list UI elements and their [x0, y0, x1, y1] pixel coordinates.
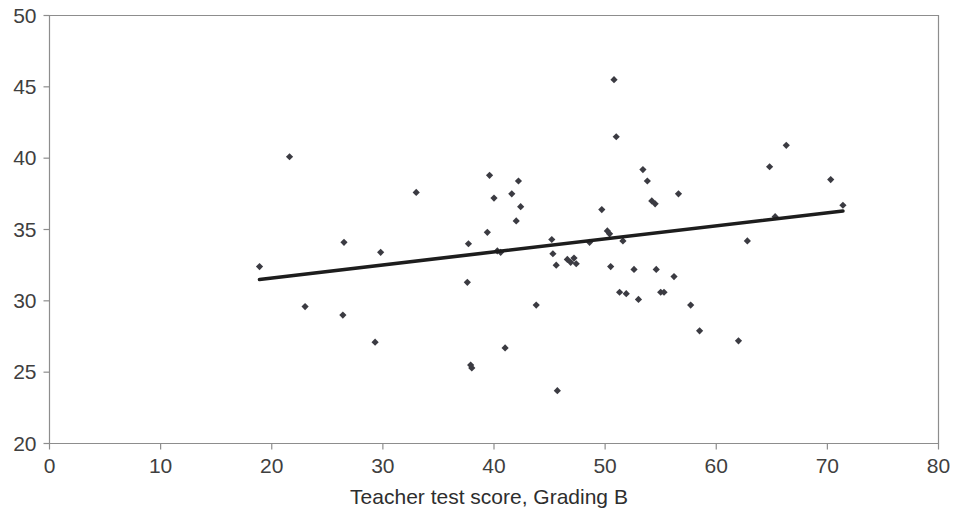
y-tick-label: 50: [13, 4, 36, 27]
data-point: [635, 296, 642, 303]
data-point: [465, 240, 472, 247]
data-point: [286, 153, 293, 160]
x-tick-label: 10: [149, 454, 172, 477]
data-point: [607, 263, 614, 270]
data-point: [508, 190, 515, 197]
data-point: [598, 206, 605, 213]
data-point: [687, 302, 694, 309]
data-point: [610, 76, 617, 83]
chart-figure: 0102030405060708020253035404550 Teacher …: [0, 0, 953, 517]
y-tick-label: 30: [13, 289, 36, 312]
data-point: [533, 302, 540, 309]
data-point: [490, 195, 497, 202]
data-point: [670, 273, 677, 280]
data-point: [301, 303, 308, 310]
trend-line-segment: [260, 211, 843, 279]
data-point: [783, 142, 790, 149]
data-point: [486, 172, 493, 179]
data-point: [839, 202, 846, 209]
data-point: [256, 263, 263, 270]
plot-frame: [50, 16, 939, 444]
data-point: [513, 217, 520, 224]
data-point: [371, 339, 378, 346]
data-point: [766, 163, 773, 170]
data-point: [464, 279, 471, 286]
axis-tick-labels: 0102030405060708020253035404550: [13, 4, 950, 477]
y-tick-label: 25: [13, 360, 36, 383]
data-point: [553, 262, 560, 269]
y-tick-label: 20: [13, 432, 36, 455]
data-point: [339, 312, 346, 319]
data-point: [744, 237, 751, 244]
data-point: [827, 176, 834, 183]
data-point: [675, 190, 682, 197]
data-point: [549, 250, 556, 257]
data-point: [377, 249, 384, 256]
data-point: [340, 239, 347, 246]
y-tick-label: 40: [13, 146, 36, 169]
x-tick-label: 0: [44, 454, 56, 477]
x-tick-label: 60: [705, 454, 728, 477]
data-point: [554, 387, 561, 394]
x-tick-label: 30: [371, 454, 394, 477]
x-tick-label: 20: [260, 454, 283, 477]
data-point: [644, 177, 651, 184]
data-point: [630, 266, 637, 273]
data-point: [613, 133, 620, 140]
data-point: [413, 189, 420, 196]
x-tick-label: 50: [593, 454, 616, 477]
axis-ticks: [44, 16, 939, 450]
data-point: [623, 290, 630, 297]
data-point: [517, 203, 524, 210]
scatter-plot: 0102030405060708020253035404550 Teacher …: [0, 0, 953, 517]
data-point: [653, 266, 660, 273]
data-point: [502, 344, 509, 351]
trend-line: [260, 211, 843, 279]
data-point: [484, 229, 491, 236]
data-point: [548, 236, 555, 243]
x-axis-title: Teacher test score, Grading B: [350, 485, 628, 508]
y-tick-label: 45: [13, 75, 36, 98]
x-tick-label: 80: [927, 454, 950, 477]
x-tick-label: 70: [816, 454, 839, 477]
data-points: [256, 76, 847, 394]
data-point: [639, 166, 646, 173]
data-point: [696, 327, 703, 334]
data-point: [616, 289, 623, 296]
y-tick-label: 35: [13, 218, 36, 241]
data-point: [735, 337, 742, 344]
data-point: [515, 177, 522, 184]
x-tick-label: 40: [482, 454, 505, 477]
